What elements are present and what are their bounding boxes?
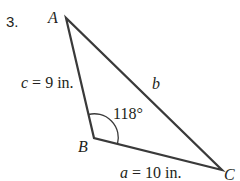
side-c-var: c: [21, 74, 28, 91]
vertex-label-B: B: [78, 138, 88, 155]
side-label-c: c = 9 in.: [21, 74, 74, 91]
side-label-b: b: [152, 75, 160, 92]
problem-number: 3.: [6, 13, 19, 30]
side-a-value: = 10 in.: [128, 164, 181, 181]
angle-label-B: 118°: [113, 105, 143, 122]
triangle-diagram: 3. A B C c = 9 in. b a = 10 in. 118°: [0, 0, 240, 181]
side-a-var: a: [120, 164, 128, 181]
triangle-shape: [66, 18, 222, 170]
vertex-label-A: A: [47, 9, 58, 26]
vertex-label-C: C: [224, 166, 235, 181]
side-label-a: a = 10 in.: [120, 164, 181, 181]
side-c-value: = 9 in.: [28, 74, 73, 91]
